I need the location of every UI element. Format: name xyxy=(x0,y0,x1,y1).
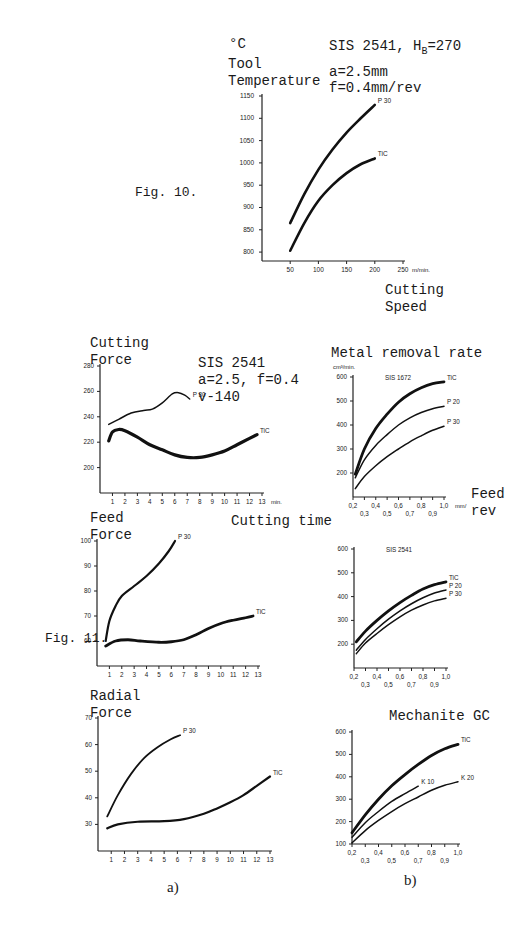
x-tick-label: 4 xyxy=(148,498,152,505)
feed-title-1: Feed xyxy=(471,486,505,503)
x-tick-label: 6 xyxy=(176,856,180,863)
series-line xyxy=(355,382,444,474)
x-tick-label: 7 xyxy=(189,856,193,863)
x-tick-label: 0,6 xyxy=(394,502,403,509)
y-tick-label: 240 xyxy=(83,413,94,420)
fig11-label: Fig. 11. xyxy=(45,631,107,647)
y-tick-label: 800 xyxy=(243,248,254,255)
x-tick-label: 150 xyxy=(341,266,352,273)
y-tick-label: 1100 xyxy=(240,114,254,121)
x-unit: m/min. xyxy=(412,267,430,273)
series-line xyxy=(107,735,180,816)
chart-tool-temperature: 8008509009501000105011001150501001502002… xyxy=(0,0,521,937)
series-label: K 20 xyxy=(461,774,474,781)
x-tick-label: 0,8 xyxy=(419,673,428,680)
series-label: K 10 xyxy=(421,778,434,785)
x-tick-label: 13 xyxy=(258,498,266,505)
x-tick-label: 0,8 xyxy=(417,502,426,509)
x-tick-label: 7 xyxy=(185,498,189,505)
x-tick-label: 0,2 xyxy=(348,849,357,856)
series-line xyxy=(290,158,375,250)
x-tick-label: 1,0 xyxy=(440,502,449,509)
feed-title-2: rev xyxy=(471,503,496,520)
chart-subtitle: SIS 1672 xyxy=(385,374,411,381)
x-tick-label: 0,3 xyxy=(361,681,370,688)
x-tick-label: 11 xyxy=(230,671,237,678)
radial-force-title-2: Force xyxy=(90,705,132,722)
y-tick-label: 200 xyxy=(83,464,94,471)
x-tick-label: 0,2 xyxy=(349,502,358,509)
y-tick-label: 200 xyxy=(337,640,348,647)
x-tick-label: 8 xyxy=(194,671,198,678)
y-tick-label: 60 xyxy=(85,741,93,748)
series-label: P 20 xyxy=(447,398,460,405)
x-tick-label: 0,4 xyxy=(374,849,383,856)
chart-tool-temperature: 8008509009501000105011001150501001502002… xyxy=(240,92,431,273)
x-tick-label: 0,7 xyxy=(407,681,416,688)
x-tick-label: 1,0 xyxy=(454,849,463,856)
feed-force-title-1: Feed xyxy=(90,510,124,527)
y-tick-label: 260 xyxy=(83,387,94,394)
y-tick-label: 100 xyxy=(335,840,346,847)
x-tick-label: 0,8 xyxy=(427,849,436,856)
y-tick-label: 50 xyxy=(85,767,93,774)
x-tick-label: 10 xyxy=(227,856,235,863)
y-tick-label: 600 xyxy=(336,373,347,380)
y-tick-label: 1150 xyxy=(240,92,254,99)
x-tick-label: 5 xyxy=(162,856,166,863)
series-label: P 30 xyxy=(183,727,196,734)
series-label: P 20 xyxy=(449,582,462,589)
x-tick-label: 2 xyxy=(123,498,127,505)
x-tick-label: 11 xyxy=(234,498,241,505)
series-label: P 30 xyxy=(178,533,191,540)
mechanite-title: Mechanite GC xyxy=(389,708,490,725)
series-line xyxy=(356,582,446,642)
x-tick-label: 10 xyxy=(221,498,229,505)
y-tick-label: 500 xyxy=(335,750,346,757)
series-line xyxy=(109,393,190,425)
cutting-force-cond-2: a=2.5, f=0.4 xyxy=(198,372,299,389)
x-tick-label: 1 xyxy=(109,856,113,863)
x-tick-label: 0,5 xyxy=(384,681,393,688)
y-tick-label: 200 xyxy=(336,469,347,476)
x-tick-label: 0,6 xyxy=(401,849,410,856)
y-tick-label: 300 xyxy=(337,616,348,623)
x-tick-label: 9 xyxy=(207,671,211,678)
y-tick-label: 80 xyxy=(84,587,92,594)
y-tick-label: 400 xyxy=(335,773,346,780)
series-label: P 30 xyxy=(447,418,460,425)
x-tick-label: 2 xyxy=(123,856,127,863)
x-tick-label: 8 xyxy=(198,498,202,505)
cutting-time-label: Cutting time xyxy=(231,513,332,530)
chart-feed-force: 6070809010012345678910111213P 30TiC xyxy=(80,533,266,678)
series-label: TiC xyxy=(260,427,270,434)
x-tick-label: 0,9 xyxy=(428,510,437,517)
y-tick-label: 200 xyxy=(335,818,346,825)
feed-force-title-2: Force xyxy=(90,527,132,544)
x-tick-label: 0,4 xyxy=(373,673,382,680)
series-line xyxy=(107,777,270,829)
x-tick-label: 13 xyxy=(266,856,274,863)
y-tick-label: 500 xyxy=(336,397,347,404)
x-tick-label: 0,3 xyxy=(360,510,369,517)
mrr-title: Metal removal rate xyxy=(331,345,482,362)
x-tick-label: 6 xyxy=(173,498,177,505)
x-tick-label: 7 xyxy=(182,671,186,678)
x-tick-label: 8 xyxy=(202,856,206,863)
y-tick-label: 30 xyxy=(85,820,93,827)
x-tick-label: 4 xyxy=(149,856,153,863)
x-tick-label: 0,9 xyxy=(430,681,439,688)
y-tick-label: 90 xyxy=(84,562,92,569)
x-tick-label: 3 xyxy=(132,671,136,678)
x-tick-label: 0,9 xyxy=(440,857,449,864)
x-tick-label: 2 xyxy=(120,671,124,678)
series-label: TiC xyxy=(378,150,388,157)
y-tick-label: 40 xyxy=(85,794,93,801)
y-tick-label: 950 xyxy=(243,181,254,188)
x-tick-label: 5 xyxy=(157,671,161,678)
y-tick-label: 400 xyxy=(336,421,347,428)
x-tick-label: 12 xyxy=(253,856,261,863)
x-tick-label: 0,7 xyxy=(414,857,423,864)
x-tick-label: 0,5 xyxy=(383,510,392,517)
x-tick-label: 12 xyxy=(242,671,250,678)
